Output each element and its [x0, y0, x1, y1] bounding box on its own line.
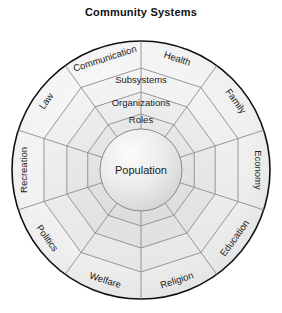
ring-label-roles: Roles: [129, 114, 154, 125]
sector-label-recreation: Recreation: [18, 147, 29, 193]
core-group: Population: [100, 129, 182, 211]
population-label: Population: [115, 164, 167, 176]
wheel-svg: HealthFamilyEconomyEducationReligionWelf…: [0, 0, 282, 313]
ring-label-organizations: Organizations: [112, 97, 171, 108]
ring-label-subsystems: Subsystems: [115, 74, 167, 85]
diagram-root: Community Systems: [0, 0, 282, 313]
community-systems-wheel: HealthFamilyEconomyEducationReligionWelf…: [0, 0, 282, 313]
sector-label-economy: Economy: [253, 150, 264, 190]
